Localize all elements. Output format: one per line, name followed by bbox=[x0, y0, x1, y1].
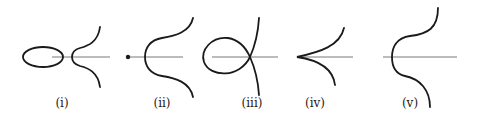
cusp-curve bbox=[297, 28, 344, 85]
isolated-point bbox=[126, 55, 130, 59]
panel-label: (v) bbox=[402, 96, 418, 110]
panel-ii: (ii) bbox=[126, 18, 193, 110]
panel-label: (iv) bbox=[305, 96, 325, 110]
panel-label: (ii) bbox=[153, 96, 170, 110]
panel-i: (i) bbox=[23, 27, 110, 110]
panel-label: (i) bbox=[55, 96, 68, 110]
smooth-branch bbox=[392, 8, 438, 107]
nodal-loop-curve bbox=[203, 18, 259, 95]
elliptic-curves-diagram: (i) (ii) (iii) (iv) (v) bbox=[0, 0, 477, 119]
panel-v: (v) bbox=[383, 8, 457, 110]
panel-label: (iii) bbox=[242, 96, 263, 110]
panel-iv: (iv) bbox=[297, 28, 353, 110]
unbounded-branch bbox=[145, 18, 193, 97]
panel-iii: (iii) bbox=[203, 18, 278, 110]
